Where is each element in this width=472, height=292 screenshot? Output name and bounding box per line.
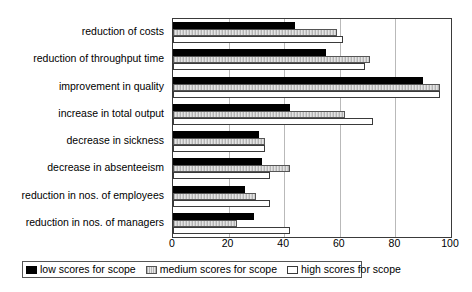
bar-group [173, 74, 451, 101]
bar-low [173, 104, 290, 111]
bar-low [173, 131, 259, 138]
bar-medium [173, 193, 256, 200]
category-label: decrease in sickness [0, 127, 170, 154]
bar-high [173, 227, 290, 234]
bar-high [173, 63, 365, 70]
chart-legend: low scores for scopemedium scores for sc… [22, 261, 362, 278]
bar-high [173, 145, 265, 152]
legend-label: high scores for scope [301, 264, 401, 275]
bar-medium [173, 165, 290, 172]
bar-medium [173, 29, 337, 36]
bar-group [173, 19, 451, 46]
bar-high [173, 91, 440, 98]
bar-low [173, 213, 254, 220]
bar-medium [173, 138, 265, 145]
legend-label: medium scores for scope [160, 264, 277, 275]
bar-low [173, 49, 326, 56]
bar-medium [173, 84, 440, 91]
value-axis-ticks: 020406080100 [172, 238, 450, 254]
black-swatch [26, 266, 37, 274]
category-label: reduction in nos. of employees [0, 182, 170, 209]
horizontal-bar-chart: reduction of costsreduction of throughpu… [0, 0, 472, 292]
category-label: decrease in absenteeism [0, 154, 170, 181]
bar-group [173, 183, 451, 210]
legend-label: low scores for scope [40, 264, 136, 275]
x-axis-tick-label: 100 [441, 238, 459, 249]
bar-group [173, 46, 451, 73]
x-axis-tick-label: 0 [169, 238, 175, 249]
category-label: reduction of throughput time [0, 45, 170, 72]
bar-group [173, 210, 451, 237]
category-label: reduction of costs [0, 18, 170, 45]
bar-low [173, 77, 423, 84]
x-axis-tick-label: 40 [277, 238, 289, 249]
bar-medium [173, 56, 370, 63]
legend-item: low scores for scope [26, 264, 136, 275]
bar-low [173, 22, 295, 29]
x-axis-tick-label: 20 [222, 238, 234, 249]
legend-item: medium scores for scope [146, 264, 277, 275]
bar-group [173, 155, 451, 182]
legend-item: high scores for scope [287, 264, 401, 275]
bar-groups [173, 19, 451, 237]
category-label: reduction in nos. of managers [0, 209, 170, 236]
x-axis-tick-label: 60 [333, 238, 345, 249]
bar-low [173, 186, 245, 193]
bar-group [173, 128, 451, 155]
bar-medium [173, 111, 345, 118]
bar-high [173, 118, 373, 125]
plot-area [172, 18, 452, 238]
bar-high [173, 200, 270, 207]
x-axis-tick-label: 80 [389, 238, 401, 249]
category-label: improvement in quality [0, 73, 170, 100]
bar-group [173, 101, 451, 128]
bar-high [173, 36, 343, 43]
category-label: increase in total output [0, 100, 170, 127]
bar-high [173, 172, 270, 179]
hatched-gray-swatch [146, 266, 157, 274]
white-swatch [287, 266, 298, 274]
bar-medium [173, 220, 237, 227]
bar-low [173, 158, 262, 165]
category-axis-labels: reduction of costsreduction of throughpu… [0, 18, 170, 236]
